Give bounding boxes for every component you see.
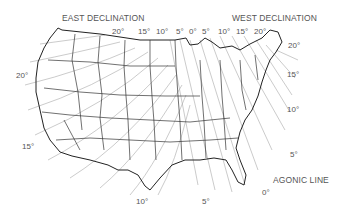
- label-west-5: 5°: [202, 27, 210, 36]
- label-east-20: 20°: [112, 27, 124, 36]
- label-west-20: 20°: [254, 27, 266, 36]
- label-bottom-5: 5°: [202, 197, 210, 206]
- label-west-10: 10°: [218, 27, 230, 36]
- label-bottom-10: 10°: [136, 197, 148, 206]
- isogonic-lines-west: [170, 36, 298, 192]
- agonic-line-label: AGONIC LINE: [273, 175, 329, 185]
- label-zero: 0°: [189, 27, 197, 36]
- east-declination-title: EAST DECLINATION: [62, 13, 145, 23]
- label-east-15: 15°: [138, 27, 150, 36]
- label-right-5: 5°: [290, 150, 298, 159]
- label-left-15: 15°: [22, 142, 34, 151]
- label-east-10: 10°: [156, 27, 168, 36]
- label-west-15: 15°: [236, 27, 248, 36]
- label-right-15: 15°: [287, 70, 299, 79]
- label-east-5: 5°: [176, 27, 184, 36]
- label-right-10: 10°: [287, 105, 299, 114]
- declination-map: EAST DECLINATION WEST DECLINATION 20° 15…: [0, 0, 338, 215]
- label-agonic-0: 0°: [262, 188, 270, 197]
- isogonic-lines-east: [25, 35, 190, 195]
- label-right-20: 20°: [288, 41, 300, 50]
- label-left-20: 20°: [16, 71, 28, 80]
- west-declination-title: WEST DECLINATION: [232, 13, 317, 23]
